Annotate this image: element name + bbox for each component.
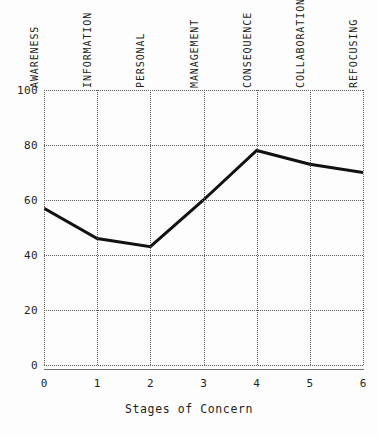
gridline-vertical: [257, 90, 258, 365]
x-axis-tick-label: 2: [130, 378, 170, 390]
gridline-vertical: [44, 90, 45, 365]
x-axis-tick-label: 1: [77, 378, 117, 390]
category-label: COLLABORATION: [296, 0, 306, 88]
category-label: PERSONAL: [136, 33, 146, 88]
category-label: INFORMATION: [83, 12, 93, 88]
y-axis-tick-label-group: 020406080100: [0, 0, 38, 436]
gridline-vertical: [97, 90, 98, 365]
gridline-horizontal: [44, 365, 363, 366]
gridline-vertical: [150, 90, 151, 365]
gridline-vertical: [204, 90, 205, 365]
category-label: REFOCUSING: [349, 19, 359, 88]
gridline-vertical: [363, 90, 364, 365]
category-label: CONSEQUENCE: [243, 12, 253, 88]
x-axis-tick-label: 6: [343, 378, 378, 390]
x-axis-line: [44, 369, 364, 370]
plot-area: [44, 90, 363, 365]
y-axis-tick-label: 80: [4, 140, 38, 151]
gridline-vertical: [310, 90, 311, 365]
y-axis-tick-label: 20: [4, 305, 38, 316]
x-axis-tick-label: 4: [237, 378, 277, 390]
y-axis-tick-label: 60: [4, 195, 38, 206]
x-axis-title: Stages of Concern: [0, 402, 378, 416]
stages-of-concern-line-chart: AWARENESSINFORMATIONPERSONALMANAGEMENTCO…: [0, 0, 378, 436]
category-label: MANAGEMENT: [190, 19, 200, 88]
x-axis-tick-label: 0: [24, 378, 64, 390]
y-axis-tick-label: 0: [4, 360, 38, 371]
y-axis-tick-label: 100: [4, 85, 38, 96]
x-axis-tick-label: 5: [290, 378, 330, 390]
x-axis-tick-label: 3: [184, 378, 224, 390]
category-label-group: AWARENESSINFORMATIONPERSONALMANAGEMENTCO…: [0, 0, 378, 88]
y-axis-tick-label: 40: [4, 250, 38, 261]
